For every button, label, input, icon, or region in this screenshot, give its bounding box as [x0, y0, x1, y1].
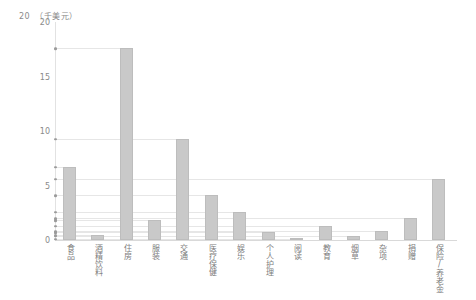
x-label-slot: 交通 [169, 244, 197, 260]
x-label-slot: 服装 [140, 244, 168, 260]
x-category-label: 捐赠 [406, 244, 414, 260]
bar[interactable] [347, 236, 360, 240]
plot-area [55, 22, 453, 240]
bar[interactable] [262, 232, 275, 240]
x-category-label: 娱乐 [236, 244, 244, 260]
bar-slot [83, 22, 111, 240]
x-category-label: 教育 [321, 244, 329, 260]
x-label-slot: 烟草 [339, 244, 367, 260]
bar[interactable] [148, 220, 161, 240]
y-tick-label: 5 [20, 181, 50, 190]
bar-slot [425, 22, 453, 240]
bar[interactable] [120, 48, 133, 240]
bar[interactable] [233, 212, 246, 240]
x-label-slot: 娱乐 [226, 244, 254, 260]
bar[interactable] [176, 139, 189, 240]
bar-slot [396, 22, 424, 240]
x-category-label: 食品 [65, 244, 73, 260]
y-tick-label: 10 [20, 127, 50, 136]
bar[interactable] [205, 195, 218, 240]
bar-slot [169, 22, 197, 240]
x-category-label: 交通 [179, 244, 187, 260]
bar-chart: 20（千美元） 05101520 食品酒精饮料住房服装交通医疗保健娱乐个人护理阅… [0, 0, 476, 300]
bar[interactable] [432, 179, 445, 240]
bar-series [55, 22, 453, 240]
bar[interactable] [404, 218, 417, 240]
bar-slot [226, 22, 254, 240]
x-category-label: 阅读 [293, 244, 301, 260]
x-category-label: 烟草 [349, 244, 357, 260]
x-axis-category-labels: 食品酒精饮料住房服装交通医疗保健娱乐个人护理阅读教育烟草杂项捐赠保险/养老金 [55, 244, 453, 300]
x-label-slot: 阅读 [282, 244, 310, 260]
bar[interactable] [375, 231, 388, 240]
bar-slot [140, 22, 168, 240]
bar[interactable] [290, 238, 303, 240]
y-tick-label: 20 [20, 18, 50, 27]
x-label-slot: 酒精饮料 [83, 244, 111, 276]
bar-slot [282, 22, 310, 240]
y-tick-label: 15 [20, 72, 50, 81]
x-label-slot: 食品 [55, 244, 83, 260]
x-label-slot: 杂项 [368, 244, 396, 260]
x-axis-line [55, 240, 457, 241]
x-category-label: 住房 [122, 244, 130, 260]
bar-slot [311, 22, 339, 240]
x-label-slot: 住房 [112, 244, 140, 260]
bar[interactable] [63, 167, 76, 240]
y-axis-ticks: 05101520 [14, 0, 50, 300]
x-label-slot: 教育 [311, 244, 339, 260]
y-tick-label: 0 [20, 236, 50, 245]
x-label-slot: 个人护理 [254, 244, 282, 276]
bar-slot [368, 22, 396, 240]
x-category-label: 个人护理 [264, 244, 272, 276]
x-label-slot: 捐赠 [396, 244, 424, 260]
bar-slot [112, 22, 140, 240]
bar-slot [254, 22, 282, 240]
x-category-label: 杂项 [378, 244, 386, 260]
bar-slot [339, 22, 367, 240]
x-label-slot: 医疗保健 [197, 244, 225, 276]
x-category-label: 服装 [150, 244, 158, 260]
x-label-slot: 保险/养老金 [425, 244, 453, 293]
bar-slot [55, 22, 83, 240]
x-category-label: 医疗保健 [207, 244, 215, 276]
bar-slot [197, 22, 225, 240]
x-category-label: 酒精饮料 [94, 244, 102, 276]
x-category-label: 保险/养老金 [435, 244, 443, 293]
bar[interactable] [91, 235, 104, 240]
bar[interactable] [319, 226, 332, 240]
